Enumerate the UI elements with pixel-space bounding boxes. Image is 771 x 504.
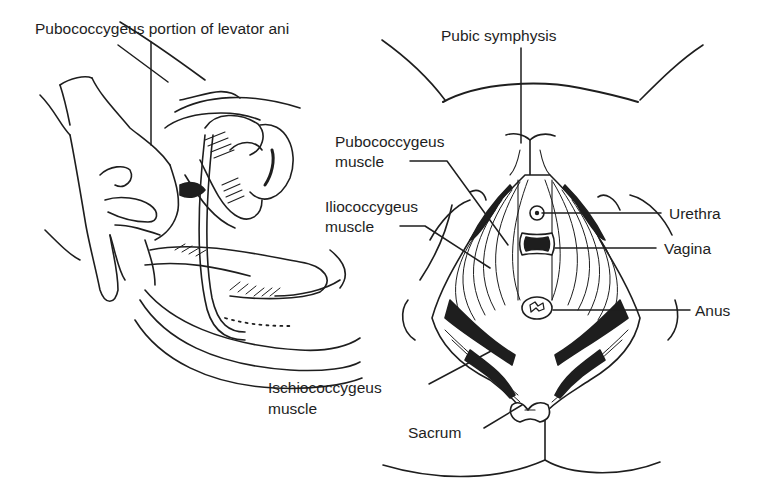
label-iliococcygeus-muscle-line1: Iliococcygeus [325,197,418,216]
label-iliococcygeus-muscle-line2: muscle [325,217,374,236]
anatomy-figure: Pubococcygeus portion of levator ani Pub… [0,0,771,504]
label-vagina: Vagina [664,239,711,258]
label-anus: Anus [695,301,730,320]
label-sacrum: Sacrum [408,423,461,442]
label-pubococcygeus-muscle-line2: muscle [335,152,384,171]
label-ischiococcygeus-muscle-line2: muscle [268,399,317,418]
label-pubococcygeus-portion: Pubococcygeus portion of levator ani [35,19,289,38]
label-pubic-symphysis: Pubic symphysis [441,26,556,45]
label-urethra: Urethra [669,204,721,223]
sagittal-illustration [40,22,362,388]
pelvic-floor-illustration [382,40,703,476]
illustration [0,0,771,504]
label-ischiococcygeus-muscle-line1: Ischiococcygeus [268,378,382,397]
label-pubococcygeus-muscle-line1: Pubococcygeus [335,132,444,151]
